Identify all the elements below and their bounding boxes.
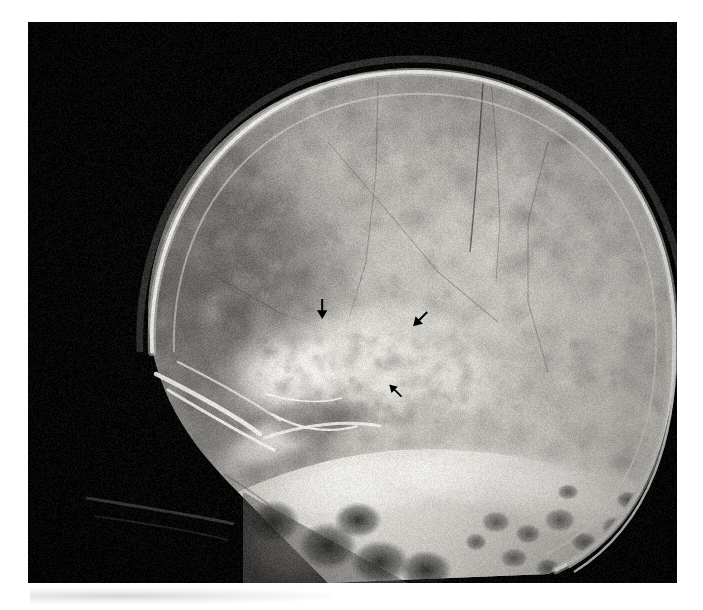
paper-smudge-artifact [30,588,330,604]
radiograph-figure [28,22,677,583]
skull-radiograph-image [28,22,677,583]
radiograph-page [0,0,703,610]
